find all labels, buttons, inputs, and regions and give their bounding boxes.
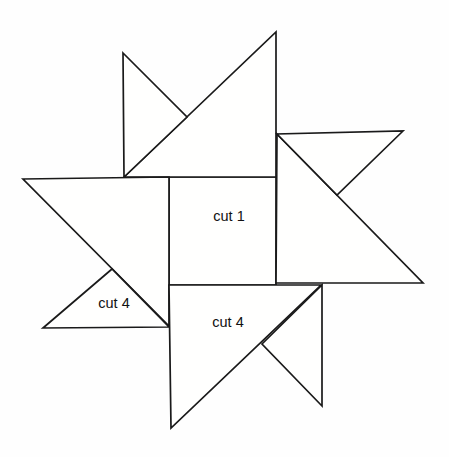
center-square (169, 177, 276, 285)
diagram-canvas: cut 1cut 4cut 4 (0, 0, 449, 457)
label-cut-1: cut 1 (213, 208, 244, 224)
label-cut-4-bottom: cut 4 (212, 314, 243, 330)
label-cut-4-left: cut 4 (98, 295, 129, 311)
quilt-pattern-diagram: cut 1cut 4cut 4 (0, 0, 449, 457)
